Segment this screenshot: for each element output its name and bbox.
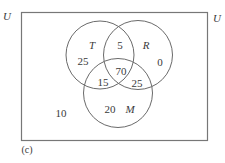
region-t-only: 25 xyxy=(78,55,90,67)
set-label-t: T xyxy=(89,39,96,51)
set-label-r: R xyxy=(142,39,150,51)
set-label-m: M xyxy=(124,103,135,115)
region-m-only: 20 xyxy=(105,103,117,115)
region-r-only: 0 xyxy=(157,56,163,68)
region-t-r-only: 5 xyxy=(117,39,123,51)
universe-label-right: U xyxy=(213,12,222,24)
region-t-m-only: 15 xyxy=(98,76,110,88)
region-r-m-only: 25 xyxy=(132,77,144,89)
venn-diagram: U U T R M 25 5 0 70 15 25 20 10 (c) xyxy=(0,0,225,163)
figure-caption: (c) xyxy=(21,144,32,156)
universe-label-left: U xyxy=(3,10,12,22)
region-t-r-m: 70 xyxy=(116,65,128,77)
universe-rectangle xyxy=(22,13,208,141)
region-outside: 10 xyxy=(56,107,68,119)
